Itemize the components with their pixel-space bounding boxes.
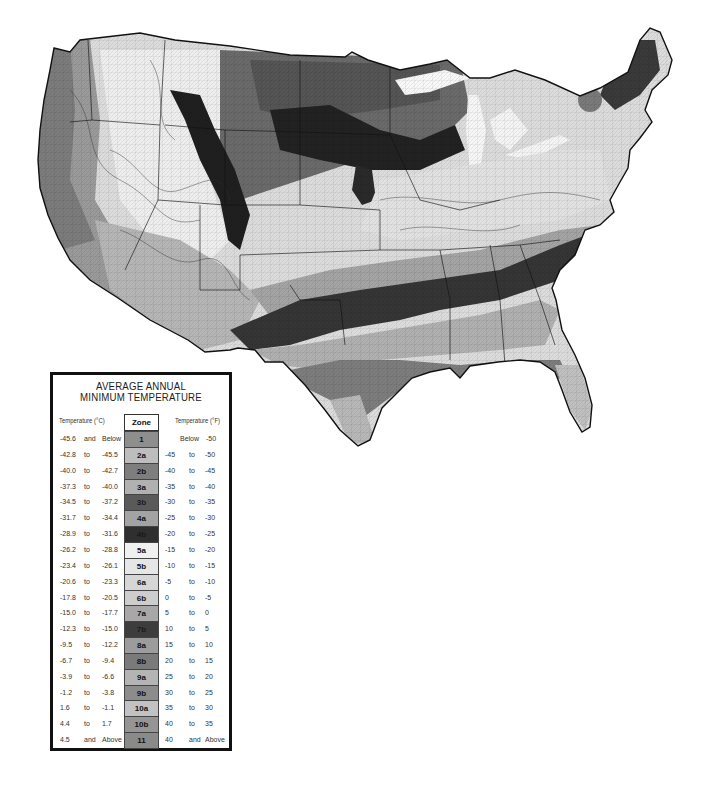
fahrenheit-to: -50 [205, 451, 215, 458]
celsius-to: -37.2 [102, 498, 118, 505]
celsius-to: -12.2 [102, 641, 118, 648]
zone-swatch: 8b [124, 653, 159, 670]
fahrenheit-to: -50 [206, 435, 216, 442]
fahrenheit-to: -25 [205, 530, 215, 537]
celsius-separator: to [84, 514, 90, 521]
legend-row: -3.9to-6.69a25to20 [53, 669, 229, 685]
fahrenheit-from: 40 [165, 736, 173, 743]
fahrenheit-to: Above [205, 736, 225, 743]
fahrenheit-from: -20 [165, 530, 175, 537]
fahrenheit-to: -45 [205, 467, 215, 474]
celsius-from: -34.5 [60, 498, 76, 505]
celsius-to: -42.7 [102, 467, 118, 474]
celsius-to: -26.1 [102, 562, 118, 569]
legend-row: -9.5to-12.28a15to10 [53, 637, 229, 653]
zone-swatch: 1 [124, 431, 159, 448]
legend: AVERAGE ANNUAL MINIMUM TEMPERATURE Tempe… [50, 372, 232, 751]
header-celsius: Temperature (°C) [59, 417, 105, 424]
celsius-separator: and [84, 435, 96, 442]
fahrenheit-from: 15 [165, 641, 173, 648]
legend-row: -31.7to-34.44a-25to-30 [53, 510, 229, 526]
fahrenheit-separator: to [189, 451, 195, 458]
celsius-separator: to [84, 562, 90, 569]
legend-row: -15.0to-17.77a5to0 [53, 605, 229, 621]
fahrenheit-to: 25 [205, 689, 213, 696]
celsius-separator: and [84, 736, 96, 743]
zone-swatch: 7b [124, 621, 159, 638]
fahrenheit-from: 30 [165, 689, 173, 696]
fahrenheit-to: -10 [205, 578, 215, 585]
zone-swatch: 7a [124, 605, 159, 622]
celsius-to: -6.6 [102, 673, 114, 680]
zone-swatch: 4b [124, 526, 159, 543]
fahrenheit-to: 10 [205, 641, 213, 648]
zone-swatch: 5b [124, 558, 159, 575]
celsius-from: -6.7 [60, 657, 72, 664]
celsius-separator: to [84, 578, 90, 585]
fahrenheit-from: 0 [165, 594, 169, 601]
legend-row: -1.2to-3.89b30to25 [53, 685, 229, 701]
celsius-to: -17.7 [102, 609, 118, 616]
fahrenheit-to: -35 [205, 498, 215, 505]
celsius-to: -31.6 [102, 530, 118, 537]
fahrenheit-from: -15 [165, 546, 175, 553]
fahrenheit-separator: to [189, 609, 195, 616]
zone-swatch: 8a [124, 637, 159, 654]
legend-row: 1.6to-1.110a35to30 [53, 700, 229, 716]
celsius-separator: to [84, 483, 90, 490]
celsius-separator: to [84, 704, 90, 711]
legend-row: 4.5andAbove1140andAbove [53, 732, 229, 748]
fahrenheit-to: 35 [205, 720, 213, 727]
fahrenheit-separator: to [189, 498, 195, 505]
celsius-separator: to [84, 641, 90, 648]
fahrenheit-separator: and [189, 736, 201, 743]
zone-swatch: 9b [124, 685, 159, 702]
celsius-to: -20.5 [102, 594, 118, 601]
fahrenheit-to: 0 [205, 609, 209, 616]
fahrenheit-from: 35 [165, 704, 173, 711]
zone-swatch: 11 [124, 732, 159, 749]
fahrenheit-separator: to [189, 594, 195, 601]
legend-row: -20.6to-23.36a-5to-10 [53, 574, 229, 590]
hardiness-zone-map: AVERAGE ANNUAL MINIMUM TEMPERATURE Tempe… [0, 0, 716, 793]
celsius-from: -12.3 [60, 625, 76, 632]
celsius-separator: to [84, 594, 90, 601]
fahrenheit-to: -5 [205, 594, 211, 601]
legend-row: -37.3to-40.03a-35to-40 [53, 479, 229, 495]
zone-swatch: 9a [124, 669, 159, 686]
celsius-from: -9.5 [60, 641, 72, 648]
legend-headers: Temperature (°C) Zone Temperature (°F) [53, 414, 229, 430]
zone-swatch: 5a [124, 542, 159, 559]
celsius-from: -42.8 [60, 451, 76, 458]
celsius-to: -34.4 [102, 514, 118, 521]
zone-swatch: 2b [124, 463, 159, 480]
fahrenheit-from: -10 [165, 562, 175, 569]
fahrenheit-from: 25 [165, 673, 173, 680]
celsius-to: -40.0 [102, 483, 118, 490]
header-fahrenheit: Temperature (°F) [175, 417, 220, 424]
fahrenheit-from: 40 [165, 720, 173, 727]
fahrenheit-from: -30 [165, 498, 175, 505]
zone-swatch: 4a [124, 510, 159, 527]
legend-row: -17.8to-20.56b0to-5 [53, 590, 229, 606]
celsius-from: -31.7 [60, 514, 76, 521]
celsius-separator: to [84, 498, 90, 505]
celsius-to: -3.8 [102, 689, 114, 696]
zone-swatch: 10a [124, 700, 159, 717]
fahrenheit-to: 5 [205, 625, 209, 632]
fahrenheit-to: 15 [205, 657, 213, 664]
celsius-to: -28.8 [102, 546, 118, 553]
fahrenheit-separator: to [189, 562, 195, 569]
celsius-separator: to [84, 689, 90, 696]
fahrenheit-separator: to [189, 641, 195, 648]
zone-swatch: 10b [124, 716, 159, 733]
celsius-to: -45.5 [102, 451, 118, 458]
fahrenheit-to: 20 [205, 673, 213, 680]
celsius-from: -3.9 [60, 673, 72, 680]
celsius-separator: to [84, 546, 90, 553]
fahrenheit-from: -45 [165, 451, 175, 458]
fahrenheit-from: -35 [165, 483, 175, 490]
celsius-separator: to [84, 451, 90, 458]
celsius-to: -15.0 [102, 625, 118, 632]
celsius-to: 1.7 [102, 720, 112, 727]
